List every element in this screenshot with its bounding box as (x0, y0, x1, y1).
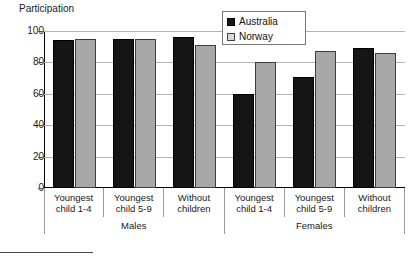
bar-norway-0 (75, 39, 96, 188)
category-label-line: child 1-4 (236, 203, 272, 214)
legend-item-label: Norway (239, 31, 273, 42)
category-label-line: Without (178, 192, 210, 203)
gridline (44, 157, 405, 158)
gridline (44, 125, 405, 126)
category-label-3: Youngestchild 1-4 (225, 188, 285, 217)
group-row: MalesFemales (44, 217, 405, 234)
category-label-line: children (177, 203, 210, 214)
category-row: Youngestchild 1-4Youngestchild 5-9Withou… (44, 188, 405, 217)
category-label-line: Without (358, 192, 390, 203)
group-label-males: Males (44, 217, 225, 234)
chart-title: Participation (19, 3, 74, 15)
bar-australia-5 (353, 48, 374, 188)
category-label-line: children (358, 203, 391, 214)
chart-legend: AustraliaNorway (222, 11, 306, 45)
category-label-line: Youngest (54, 192, 93, 203)
category-label-line: Youngest (114, 192, 153, 203)
bar-australia-1 (113, 39, 134, 188)
category-label-5: Withoutchildren (345, 188, 405, 217)
bar-norway-2 (195, 45, 216, 188)
legend-item-australia[interactable]: Australia (227, 14, 302, 29)
footer-rule (0, 252, 93, 253)
bar-norway-3 (255, 62, 276, 188)
bar-norway-4 (315, 51, 336, 188)
bar-norway-5 (375, 53, 396, 188)
category-label-4: Youngestchild 5-9 (285, 188, 345, 217)
bar-australia-4 (293, 77, 314, 188)
category-label-line: child 1-4 (56, 203, 92, 214)
category-label-line: child 5-9 (296, 203, 332, 214)
legend-swatch-icon (227, 18, 235, 26)
bar-australia-3 (233, 94, 254, 188)
gridline (44, 94, 405, 95)
bar-australia-0 (53, 40, 74, 188)
category-label-2: Withoutchildren (164, 188, 224, 217)
plot-frame (44, 31, 405, 188)
legend-item-norway[interactable]: Norway (227, 29, 302, 44)
group-label-females: Females (225, 217, 406, 234)
y-axis: 020406080100 (0, 31, 44, 189)
plot-area (44, 31, 405, 188)
category-label-1: Youngestchild 5-9 (104, 188, 164, 217)
legend-item-label: Australia (239, 16, 278, 27)
category-label-line: child 5-9 (116, 203, 152, 214)
bar-australia-2 (173, 37, 194, 188)
category-label-0: Youngestchild 1-4 (44, 188, 104, 217)
category-label-line: Youngest (295, 192, 334, 203)
category-label-table: Youngestchild 1-4Youngestchild 5-9Withou… (44, 188, 405, 234)
gridline (44, 62, 405, 63)
legend-swatch-icon (227, 33, 235, 41)
category-label-line: Youngest (234, 192, 273, 203)
bar-norway-1 (135, 39, 156, 188)
